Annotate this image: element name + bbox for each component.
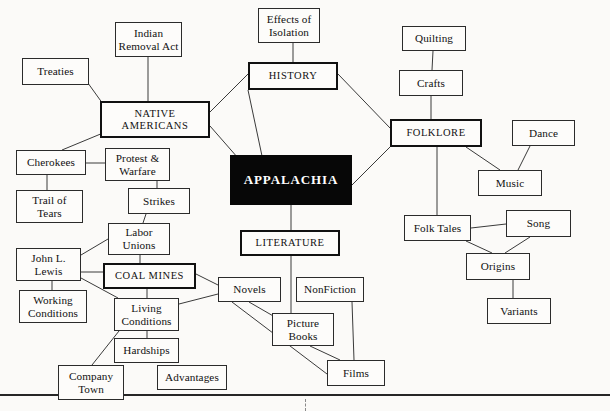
node-folk-tales[interactable]: Folk Tales: [404, 215, 471, 241]
edge-folk-tales-to-origins: [466, 241, 492, 253]
node-treaties[interactable]: Treaties: [22, 58, 89, 85]
edge-folk-tales-to-song: [471, 224, 506, 228]
edge-dance-to-music: [518, 146, 530, 170]
node-label: Variants: [500, 305, 537, 318]
node-nonfiction[interactable]: NonFiction: [296, 277, 364, 302]
node-label: Living Conditions: [121, 302, 171, 327]
node-label: Novels: [233, 283, 265, 296]
node-label: Company Town: [69, 370, 113, 395]
node-novels[interactable]: Novels: [218, 277, 281, 302]
node-label: Advantages: [165, 371, 219, 384]
node-label: Hardships: [123, 344, 169, 357]
edge-history-to-folklore: [338, 74, 390, 128]
node-label: Music: [496, 177, 524, 190]
node-label: Labor Unions: [123, 226, 156, 251]
node-label: NATIVE AMERICANS: [122, 108, 189, 132]
node-origins[interactable]: Origins: [466, 253, 530, 280]
node-label: Quilting: [415, 32, 453, 45]
edge-nonfiction-to-films: [352, 302, 354, 360]
node-label: Origins: [481, 260, 515, 273]
node-indian-removal-act[interactable]: Indian Removal Act: [115, 22, 182, 57]
node-films[interactable]: Films: [327, 360, 385, 386]
node-cherokees[interactable]: Cherokees: [16, 150, 86, 175]
node-label: Trail of Tears: [32, 194, 66, 219]
edge-picture-books-to-films: [310, 346, 340, 360]
node-label: John L. Lewis: [31, 252, 65, 277]
node-label: Effects of Isolation: [267, 13, 312, 38]
edge-appalachia-to-folklore: [352, 147, 390, 185]
node-appalachia[interactable]: APPALACHIA: [230, 155, 352, 205]
node-company-town[interactable]: Company Town: [58, 365, 124, 400]
node-label: Treaties: [37, 65, 73, 78]
node-folklore[interactable]: FOLKLORE: [390, 119, 482, 147]
node-advantages[interactable]: Advantages: [157, 365, 227, 390]
page-center-tick: [305, 399, 306, 411]
edge-living-conditions-to-novels: [179, 294, 218, 304]
node-label: Indian Removal Act: [119, 27, 179, 52]
node-strikes[interactable]: Strikes: [128, 188, 190, 214]
concept-map-canvas: APPALACHIAHISTORYNATIVE AMERICANSFOLKLOR…: [0, 0, 610, 411]
node-john-l-lewis[interactable]: John L. Lewis: [16, 248, 81, 281]
edge-folklore-to-music: [466, 147, 500, 170]
edge-crafts-to-quilting: [432, 51, 433, 70]
node-dance[interactable]: Dance: [512, 120, 575, 146]
node-label: HISTORY: [269, 70, 318, 82]
edge-native-americans-to-appalachia: [210, 126, 238, 158]
node-label: Films: [343, 367, 369, 380]
node-effects-of-isolation[interactable]: Effects of Isolation: [258, 8, 320, 43]
node-label: NonFiction: [304, 283, 356, 296]
node-hardships[interactable]: Hardships: [114, 338, 179, 363]
node-quilting[interactable]: Quilting: [402, 26, 466, 51]
node-label: FOLKLORE: [406, 127, 465, 139]
node-variants[interactable]: Variants: [487, 298, 551, 324]
node-label: Strikes: [143, 195, 175, 208]
node-crafts[interactable]: Crafts: [399, 70, 463, 96]
edge-appalachia-to-history: [248, 90, 262, 156]
node-music[interactable]: Music: [478, 170, 542, 196]
node-label: Song: [527, 217, 550, 230]
node-literature[interactable]: LITERATURE: [240, 230, 340, 256]
node-label: Protest & Warfare: [116, 152, 159, 177]
node-label: Crafts: [417, 77, 445, 90]
edge-labor-unions-to-john-l-lewis: [81, 239, 108, 255]
node-coal-mines[interactable]: COAL MINES: [103, 263, 196, 289]
node-trail-of-tears[interactable]: Trail of Tears: [16, 190, 83, 223]
node-song[interactable]: Song: [506, 210, 571, 237]
edge-native-americans-to-cherokees: [62, 133, 103, 150]
node-label: LITERATURE: [255, 237, 324, 249]
node-working-conditions[interactable]: Working Conditions: [19, 290, 87, 323]
node-label: Working Conditions: [28, 294, 78, 319]
node-picture-books[interactable]: Picture Books: [272, 313, 334, 346]
edge-strikes-to-labor-unions: [143, 214, 146, 223]
node-native-americans[interactable]: NATIVE AMERICANS: [100, 101, 210, 138]
node-label: Picture Books: [287, 317, 319, 342]
node-label: Folk Tales: [414, 222, 462, 235]
node-label: Cherokees: [27, 156, 75, 169]
node-label: COAL MINES: [115, 270, 184, 282]
edge-coal-mines-to-novels: [196, 274, 218, 285]
node-labor-unions[interactable]: Labor Unions: [108, 223, 170, 255]
node-history[interactable]: HISTORY: [248, 62, 338, 90]
edge-history-to-native-americans: [210, 74, 248, 112]
node-protest-warfare[interactable]: Protest & Warfare: [105, 148, 170, 181]
edge-song-to-origins: [505, 237, 530, 253]
node-label: Dance: [529, 127, 558, 140]
node-living-conditions[interactable]: Living Conditions: [114, 298, 179, 331]
node-label: APPALACHIA: [244, 173, 339, 188]
